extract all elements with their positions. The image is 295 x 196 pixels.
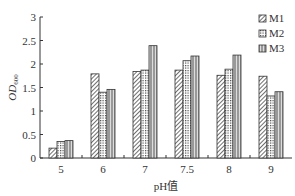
bar-m2	[183, 61, 191, 158]
bar-m3	[275, 92, 283, 158]
y-tick-label: 3	[31, 11, 37, 23]
legend-swatch-m3	[259, 45, 266, 52]
legend: M1M2M3	[259, 12, 285, 54]
bar-m2	[141, 70, 149, 158]
bar-m2	[225, 69, 233, 158]
y-tick-label: 2	[31, 58, 37, 70]
bar-m1	[175, 70, 183, 158]
y-tick-label: 0.5	[22, 129, 36, 141]
bar-m2	[99, 92, 107, 158]
bar-m1	[259, 76, 267, 158]
bar-m3	[191, 56, 199, 158]
x-tick-label: 6	[100, 163, 106, 175]
bar-m2	[267, 96, 275, 158]
y-tick-label: 2.5	[22, 35, 36, 47]
y-axis-label: OD600	[6, 74, 20, 101]
bar-m3	[233, 55, 241, 158]
bar-m1	[49, 148, 57, 158]
legend-swatch-m1	[259, 15, 266, 22]
bar-m3	[65, 141, 73, 158]
x-tick-label: 5	[58, 163, 64, 175]
y-tick-label: 1	[31, 105, 37, 117]
bar-m1	[217, 75, 225, 158]
legend-label-m2: M2	[269, 27, 284, 39]
legend-label-m3: M3	[269, 42, 285, 54]
x-tick-label: 7	[142, 163, 148, 175]
bar-m3	[107, 89, 115, 158]
bar-m1	[133, 72, 141, 158]
x-axis-label: pH值	[154, 180, 178, 192]
x-tick-label: 7.5	[180, 163, 194, 175]
bar-m1	[91, 74, 99, 158]
x-tick-label: 8	[226, 163, 232, 175]
legend-swatch-m2	[259, 30, 266, 37]
bars	[49, 46, 283, 158]
legend-label-m1: M1	[269, 12, 284, 24]
bar-m3	[149, 46, 157, 158]
y-tick-label: 1.5	[22, 82, 36, 94]
x-tick-label: 9	[268, 163, 274, 175]
bar-m2	[57, 142, 65, 158]
bar-chart: 00.511.522.535677.589pH值OD600 M1M2M3	[0, 0, 295, 196]
y-tick-label: 0	[31, 152, 37, 164]
